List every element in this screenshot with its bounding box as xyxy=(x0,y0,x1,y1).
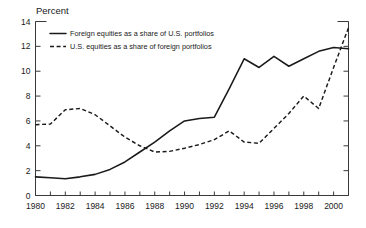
y-axis-ticks xyxy=(36,22,41,196)
chart-legend: Foreign equities as a share of U.S. port… xyxy=(50,29,214,51)
y-tick-label: 12 xyxy=(21,41,31,51)
y-tick-label: 8 xyxy=(26,91,31,101)
x-tick-label: 1996 xyxy=(265,201,284,211)
x-tick-label: 1988 xyxy=(145,201,164,211)
x-tick-label: 1980 xyxy=(26,201,45,211)
x-axis-ticks xyxy=(36,192,349,196)
y-tick-label: 2 xyxy=(26,166,31,176)
x-tick-label: 1982 xyxy=(56,201,75,211)
legend-label-foreign-equities: Foreign equities as a share of U.S. port… xyxy=(70,29,214,38)
x-tick-label: 1990 xyxy=(175,201,194,211)
y-tick-label: 0 xyxy=(26,191,31,201)
equity-shares-line-chart: Percent 02468101214 19801982198419861988… xyxy=(0,0,366,228)
x-tick-label: 1986 xyxy=(115,201,134,211)
y-tick-label: 6 xyxy=(26,116,31,126)
x-axis-tick-labels: 1980198219841986198819901992199419961998… xyxy=(26,201,343,211)
y-axis-tick-labels: 02468101214 xyxy=(21,17,31,201)
chart-figure: Percent 02468101214 19801982198419861988… xyxy=(0,0,366,228)
legend-label-us-equities: U.S. equities as a share of foreign port… xyxy=(70,42,212,51)
y-tick-label: 10 xyxy=(21,66,31,76)
y-axis-title: Percent xyxy=(36,5,69,16)
x-tick-label: 1994 xyxy=(235,201,254,211)
series-line-foreign-equities-us-portfolios xyxy=(36,48,349,179)
y-tick-label: 4 xyxy=(26,141,31,151)
y-tick-label: 14 xyxy=(21,17,31,27)
x-tick-label: 1984 xyxy=(86,201,105,211)
y-axis-ticks-right xyxy=(344,22,349,196)
x-tick-label: 2000 xyxy=(324,201,343,211)
x-tick-label: 1992 xyxy=(205,201,224,211)
x-tick-label: 1998 xyxy=(294,201,313,211)
